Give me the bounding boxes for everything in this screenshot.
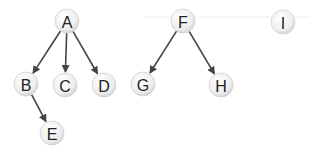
node-B: B xyxy=(14,72,38,96)
node-label: I xyxy=(281,15,285,32)
edge-A-D xyxy=(73,31,97,73)
node-G: G xyxy=(131,72,155,96)
node-label: H xyxy=(215,78,227,95)
node-A: A xyxy=(55,9,79,33)
tree-diagram: ABCDEFGHI xyxy=(0,0,313,160)
node-label: A xyxy=(62,14,73,31)
node-E: E xyxy=(40,121,64,145)
edge-A-C xyxy=(65,33,66,72)
edge-A-B xyxy=(33,31,60,73)
node-label: D xyxy=(98,78,110,95)
node-I: I xyxy=(271,10,295,34)
node-label: E xyxy=(47,126,58,143)
node-D: D xyxy=(92,73,116,97)
node-label: C xyxy=(59,78,71,95)
node-F: F xyxy=(171,9,195,33)
edge-F-H xyxy=(189,31,214,74)
node-label: G xyxy=(137,77,149,94)
node-label: F xyxy=(178,14,188,31)
edge-F-G xyxy=(150,31,177,73)
node-C: C xyxy=(53,73,77,97)
node-label: B xyxy=(21,77,32,94)
node-H: H xyxy=(209,73,233,97)
nodes: ABCDEFGHI xyxy=(14,9,295,145)
edge-B-E xyxy=(32,95,46,122)
